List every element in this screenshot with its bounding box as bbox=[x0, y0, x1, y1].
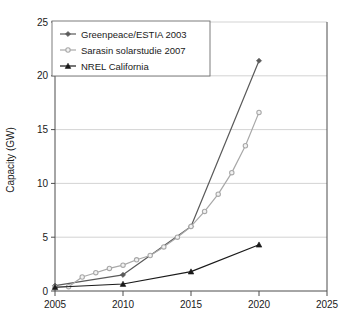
data-point-marker bbox=[94, 271, 98, 275]
x-tick-label: 2005 bbox=[44, 299, 67, 310]
legend-label: Sarasin solarstudie 2007 bbox=[81, 45, 186, 56]
y-tick-label: 10 bbox=[37, 178, 49, 189]
data-point-marker bbox=[80, 275, 84, 279]
chart-figure: 0510152025 20052010201520202025 Capacity… bbox=[0, 0, 356, 330]
data-point-marker bbox=[189, 224, 193, 228]
data-point-marker bbox=[134, 258, 138, 262]
data-point-marker bbox=[202, 209, 206, 213]
data-point-marker bbox=[148, 253, 152, 257]
legend-label: NREL California bbox=[81, 61, 149, 72]
data-point-marker bbox=[243, 144, 247, 148]
data-point-marker bbox=[175, 235, 179, 239]
x-tick-label: 2020 bbox=[248, 299, 271, 310]
y-tick-label: 20 bbox=[37, 70, 49, 81]
y-tick-label: 25 bbox=[37, 17, 49, 28]
capacity-line-chart: 0510152025 20052010201520202025 Capacity… bbox=[0, 0, 356, 330]
x-tick-label: 2025 bbox=[316, 299, 339, 310]
data-point-marker bbox=[121, 263, 125, 267]
data-point-marker bbox=[230, 170, 234, 174]
y-tick-label: 5 bbox=[42, 232, 48, 243]
chart-legend: Greenpeace/ESTIA 2003Sarasin solarstudie… bbox=[52, 21, 210, 76]
y-tick-label: 0 bbox=[42, 286, 48, 297]
legend-label: Greenpeace/ESTIA 2003 bbox=[81, 29, 187, 40]
data-point-marker bbox=[257, 110, 261, 114]
data-point-marker bbox=[162, 245, 166, 249]
x-tick-label: 2010 bbox=[112, 299, 135, 310]
y-axis-title: Capacity (GW) bbox=[5, 127, 16, 193]
data-point-marker bbox=[216, 192, 220, 196]
x-tick-label: 2015 bbox=[180, 299, 203, 310]
y-tick-label: 15 bbox=[37, 124, 49, 135]
data-point-marker bbox=[66, 48, 70, 52]
data-point-marker bbox=[107, 266, 111, 270]
